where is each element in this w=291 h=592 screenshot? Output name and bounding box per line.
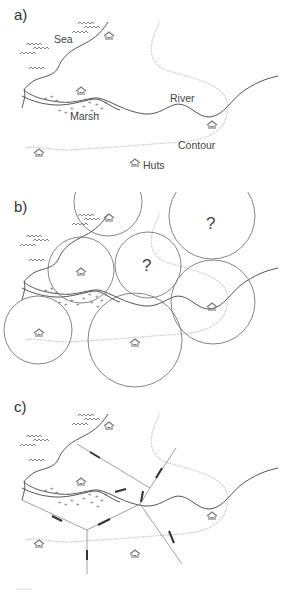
hut-icon — [76, 268, 86, 276]
contour-label: Contour — [178, 139, 215, 151]
hut-icon — [207, 512, 217, 520]
sea-waves — [20, 22, 100, 69]
territory-circles — [4, 192, 255, 387]
hut-icon — [76, 478, 86, 486]
panel-label: b) — [14, 198, 27, 215]
contour-line — [25, 214, 228, 342]
hut-icon — [104, 214, 114, 222]
contour-line — [25, 414, 228, 542]
territory-boundaries — [22, 444, 182, 574]
unknown-mark: ? — [142, 256, 151, 276]
hut-icon — [207, 121, 217, 129]
huts-label: Huts — [143, 159, 165, 171]
marsh-label: Marsh — [70, 110, 99, 122]
river-label: River — [170, 92, 195, 104]
footer-mark — [16, 588, 32, 590]
hut-icon — [34, 329, 44, 337]
panel-b: b) ? ? — [0, 192, 291, 387]
unknown-mark: ? — [206, 214, 215, 234]
hut-icon — [130, 339, 140, 347]
panel-c: c) — [0, 392, 291, 587]
sea-label: Sea — [54, 33, 73, 45]
sea-waves — [20, 414, 100, 461]
panel-label: a) — [14, 6, 27, 23]
hut-icon — [130, 550, 140, 558]
map-b — [0, 192, 291, 392]
hut-icon — [76, 87, 86, 95]
coastline — [24, 414, 108, 482]
map-c — [0, 392, 291, 592]
panel-a: a) Sea Marsh River Contour Huts — [0, 0, 291, 195]
hut-icon — [34, 149, 44, 157]
hut-icon — [130, 159, 140, 167]
hut-icon — [34, 540, 44, 548]
boundary-crossings — [52, 452, 174, 560]
hut-icon — [207, 303, 217, 311]
panel-label: c) — [14, 398, 27, 415]
hut-icon — [104, 422, 114, 430]
coastline — [24, 214, 108, 282]
hut-icon — [104, 32, 114, 40]
